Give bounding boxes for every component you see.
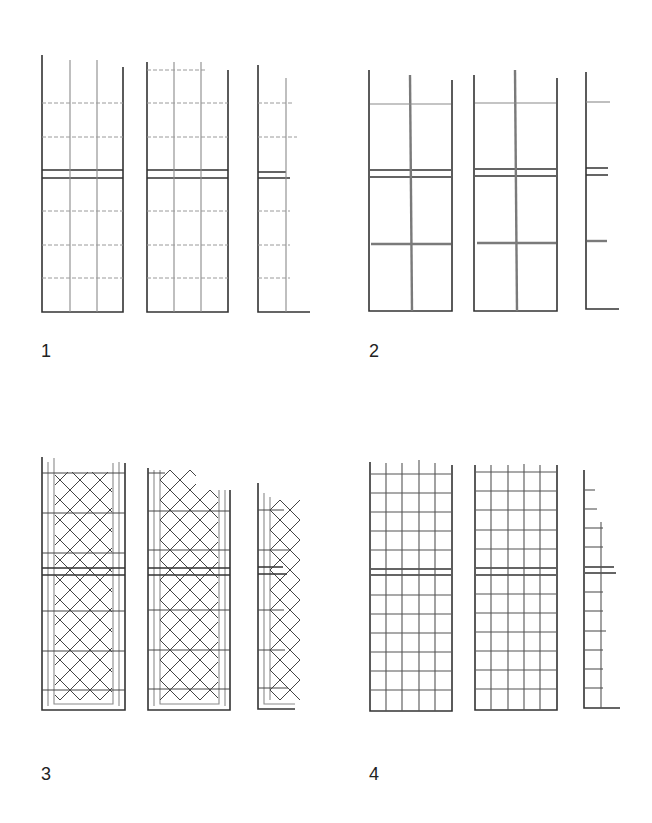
panel-4 bbox=[370, 460, 620, 711]
trellis-diagram bbox=[0, 0, 652, 823]
panel-1 bbox=[42, 55, 310, 312]
panel-label-2: 2 bbox=[369, 341, 379, 362]
panel-label-1: 1 bbox=[41, 341, 51, 362]
panel-label-3: 3 bbox=[41, 764, 51, 785]
panel-3 bbox=[42, 457, 300, 710]
panel-2 bbox=[369, 70, 619, 311]
panel-label-4: 4 bbox=[369, 764, 379, 785]
